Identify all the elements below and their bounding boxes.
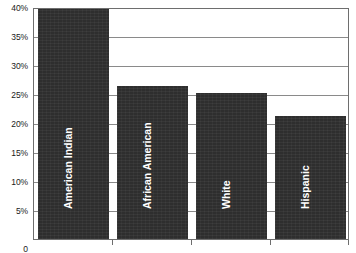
x-tick [348, 240, 349, 245]
y-tick-label: 25% [11, 91, 28, 100]
bar-american-indian: American Indian [38, 9, 109, 239]
plot-area: American Indian African American White H… [33, 8, 349, 240]
y-tick-label: 30% [11, 62, 28, 71]
y-tick-label: 35% [11, 33, 28, 42]
bar-label: Hispanic [299, 165, 311, 209]
x-axis [33, 240, 349, 248]
bar-label: White [220, 180, 232, 209]
bar-label-wrap: African American [117, 86, 188, 239]
x-tick [191, 240, 192, 245]
bar-african-american: African American [117, 86, 188, 239]
bar-label: African American [141, 122, 153, 209]
bars-layer: American Indian African American White H… [34, 8, 349, 239]
bar-white: White [196, 93, 267, 239]
y-tick-label-zero: 0 [0, 244, 28, 253]
bar-chart: 40% 35% 30% 25% 20% 15% 10% 5% 0 America… [0, 0, 356, 253]
bar-label: American Indian [62, 127, 74, 209]
y-tick-label: 15% [11, 149, 28, 158]
x-tick [112, 240, 113, 245]
bar-label-wrap: White [196, 93, 267, 239]
y-tick-label: 20% [11, 120, 28, 129]
y-axis: 40% 35% 30% 25% 20% 15% 10% 5% [0, 0, 31, 253]
bar-label-wrap: Hispanic [275, 116, 346, 239]
x-tick [270, 240, 271, 245]
y-tick-label: 40% [11, 4, 28, 13]
bar-hispanic: Hispanic [275, 116, 346, 239]
y-tick-label: 10% [11, 178, 28, 187]
bar-label-wrap: American Indian [38, 9, 109, 239]
y-tick-label: 5% [16, 207, 28, 216]
